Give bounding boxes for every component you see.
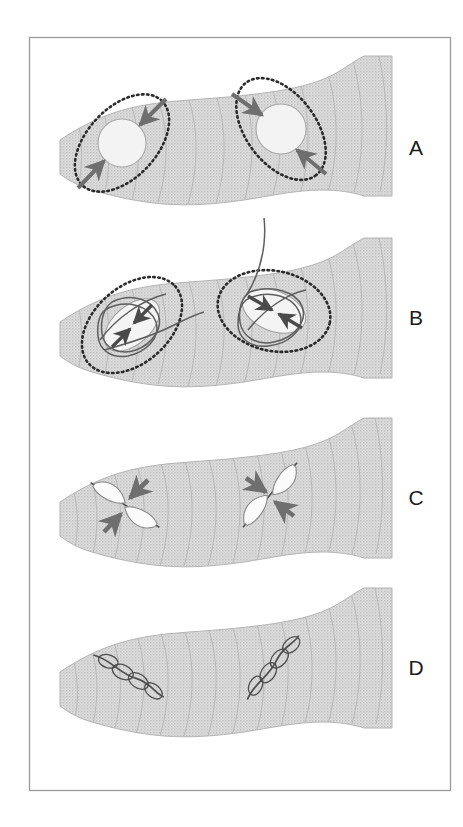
panel-c: C [60,414,424,567]
figure-root: A [0,0,463,827]
membrane-pore-opening [98,119,146,167]
panel-a: A [57,52,423,209]
panel-d: D [60,584,424,737]
panel-b: B [60,218,423,392]
panel-label-a: A [409,136,423,159]
panel-label-d: D [408,656,423,679]
panel-label-c: C [408,486,423,509]
membrane-sheet-b [60,238,392,387]
panel-label-b: B [409,306,423,329]
membrane-pore-opening [256,104,306,154]
figure-canvas: A [0,0,463,827]
